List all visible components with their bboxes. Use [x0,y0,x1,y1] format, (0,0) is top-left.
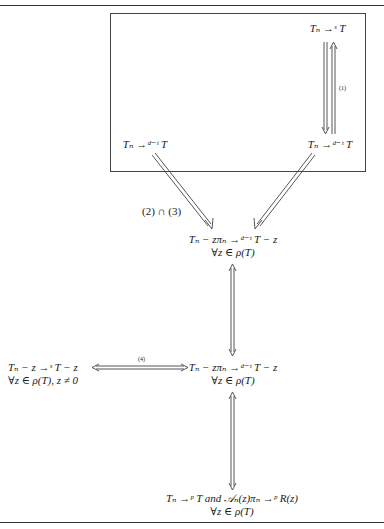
edge-label-4: (4) [138,356,145,362]
node-center: Tₙ − zπₙ →ᵈ⁻ᵗ T − z ∀z ∈ ρ(T) [160,233,306,259]
implies-arrow-diagonal-right [254,153,315,229]
arrows-layer [0,0,384,529]
node-bottom: Tₙ →ᵖ T and 𝒜ₙ(z)πₙ →ᵖ R(z) ∀z ∈ ρ(T) [132,492,332,518]
node-text: Tₙ →ᵈ⁻ᵗ T [123,138,167,150]
node-strong-convergence: Tₙ →ˢ T [290,22,365,35]
node-text-line2: ∀z ∈ ρ(T) [132,505,332,518]
implies-arrow-diagonal-left [152,153,213,229]
implies-arrow-down [322,42,329,134]
node-box-left: Tₙ →ᵈ⁻ᵗ T [105,138,185,151]
node-text: Tₙ →ˢ T [310,22,346,34]
node-text-line2: ∀z ∈ ρ(T), z ≠ 0 [8,374,98,387]
iff-arrow-vertical-lower [229,392,236,490]
edge-label-2-and-3: (2) ∩ (3) [142,205,181,217]
node-box-right: Tₙ →ᵈ⁻ᵗ T [290,138,370,151]
node-text-line2: ∀z ∈ ρ(T) [160,374,306,387]
node-middle-center: Tₙ − zπₙ →ᵈ⁻ᵗ T − z ∀z ∈ ρ(T) [160,361,306,387]
node-text-line1: Tₙ →ᵖ T and 𝒜ₙ(z)πₙ →ᵖ R(z) [132,492,332,505]
node-text-line1: Tₙ − zπₙ →ᵈ⁻ᵗ T − z [160,233,306,246]
node-middle-left: Tₙ − z →ˢ T − z ∀z ∈ ρ(T), z ≠ 0 [8,361,98,387]
iff-arrow-vertical-upper [229,264,236,356]
node-text-line1: Tₙ − zπₙ →ᵈ⁻ᵗ T − z [160,361,306,374]
implies-arrow-up [330,42,337,134]
node-text-line2: ∀z ∈ ρ(T) [160,246,306,259]
node-text: Tₙ →ᵈ⁻ᵗ T [308,138,352,150]
edge-label-1: (1) [339,85,346,91]
node-text-line1: Tₙ − z →ˢ T − z [8,361,98,374]
